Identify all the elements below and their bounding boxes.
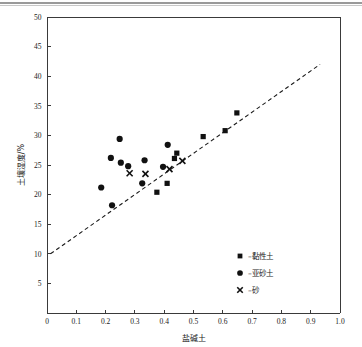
marker-circle-1-5 [125,163,131,169]
trendline [51,64,321,253]
legend: –黏性土–亚砂土–砂 [237,251,274,295]
y-tick-label: 10 [34,250,42,259]
x-tick-label: 0.4 [160,317,170,326]
x-tick-label: 0.7 [247,317,257,326]
y-tick-label: 15 [34,220,42,229]
axis-frame [47,17,340,313]
legend-item-0: –黏性土 [238,251,274,261]
y-tick-label: 20 [34,190,42,199]
marker-cross-2-3 [179,158,185,164]
marker-square-0-0 [154,190,159,195]
y-tick-label: 40 [34,72,42,81]
marker-square-0-5 [223,128,228,133]
legend-label-0: –黏性土 [248,251,274,261]
marker-square-0-1 [165,181,170,186]
marker-cross-legend-2 [237,287,243,293]
chart-figure: 510152025303540455000.10.20.30.40.50.60.… [0,0,362,347]
x-tick-label: 0.5 [189,317,199,326]
series-0 [154,110,239,195]
scatter-plot: 510152025303540455000.10.20.30.40.50.60.… [0,0,362,347]
marker-circle-1-4 [118,160,124,166]
marker-circle-1-2 [109,202,115,208]
marker-square-0-3 [174,151,179,156]
y-axis-title: 土壤湿度/% [16,143,26,186]
y-tick-label: 35 [34,102,42,111]
marker-circle-1-3 [117,136,123,142]
series-1 [98,136,171,209]
marker-square-0-6 [234,110,239,115]
x-tick-label: 0.3 [130,317,140,326]
x-axis-title: 盐碱土 [182,333,206,343]
trend-line [51,64,321,253]
data-points [98,110,239,208]
y-tick-label: 50 [34,13,42,22]
x-tick-label: 1.0 [335,317,345,326]
marker-circle-1-9 [165,142,171,148]
x-tick-label: 0.6 [218,317,228,326]
x-tick-label: 0.1 [72,317,82,326]
marker-circle-1-7 [141,157,147,163]
marker-circle-1-8 [160,164,166,170]
marker-square-legend-0 [238,254,243,259]
y-tick-label: 5 [38,279,42,288]
marker-circle-1-0 [98,184,104,190]
marker-cross-2-0 [127,170,133,176]
legend-label-1: –亚砂土 [248,268,274,278]
legend-item-1: –亚砂土 [237,268,274,278]
x-tick-label: 0.8 [277,317,287,326]
axis-spine [47,17,340,313]
x-tick-label: 0.9 [306,317,316,326]
x-tick-label: 0.2 [101,317,111,326]
axes: 510152025303540455000.10.20.30.40.50.60.… [34,13,345,326]
marker-cross-2-1 [142,171,148,177]
y-tick-label: 25 [34,161,42,170]
y-tick-label: 30 [34,131,42,140]
marker-square-0-4 [201,134,206,139]
marker-square-0-2 [172,156,177,161]
marker-circle-legend-1 [237,270,243,276]
y-tick-label: 45 [34,42,42,51]
marker-circle-1-6 [139,180,145,186]
marker-circle-1-1 [108,155,114,161]
legend-item-2: –砂 [237,285,260,295]
x-tick-label: 0 [45,317,49,326]
legend-label-2: –砂 [248,285,260,295]
